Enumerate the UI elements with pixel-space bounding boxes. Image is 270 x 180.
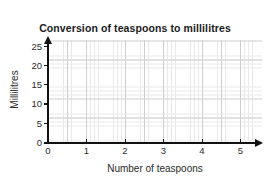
x-tick-mark — [163, 139, 164, 143]
y-axis-title: Millilitres — [9, 45, 20, 135]
x-tick-label: 1 — [76, 145, 98, 156]
chart-container: Conversion of teaspoons to millilitres 0… — [0, 0, 270, 180]
x-tick-mark — [202, 139, 203, 143]
y-tick-label: 15 — [20, 80, 42, 90]
y-axis-arrow-icon — [44, 36, 52, 44]
x-tick-label: 5 — [230, 145, 252, 156]
x-tick-label: 3 — [153, 145, 175, 156]
y-axis-line — [47, 44, 49, 144]
x-axis-arrow-icon — [255, 139, 263, 147]
x-tick-mark — [125, 139, 126, 143]
x-tick-mark — [86, 139, 87, 143]
y-tick-label: 5 — [20, 119, 42, 129]
x-tick-mark — [240, 139, 241, 143]
x-tick-label: 2 — [114, 145, 136, 156]
y-tick-label: 10 — [20, 99, 42, 109]
x-tick-label: 4 — [191, 145, 213, 156]
y-tick-label: 0 — [20, 138, 42, 148]
plot-area-grid — [48, 40, 262, 143]
x-axis-line — [44, 142, 258, 144]
y-tick-mark — [44, 84, 48, 85]
y-tick-label: 25 — [20, 42, 42, 52]
y-tick-mark — [44, 65, 48, 66]
y-tick-mark — [44, 103, 48, 104]
y-tick-mark — [44, 123, 48, 124]
x-axis-title: Number of teaspoons — [48, 163, 262, 174]
y-tick-mark — [44, 142, 48, 143]
chart-title: Conversion of teaspoons to millilitres — [0, 22, 270, 34]
y-tick-mark — [44, 46, 48, 47]
y-tick-label: 20 — [20, 61, 42, 71]
